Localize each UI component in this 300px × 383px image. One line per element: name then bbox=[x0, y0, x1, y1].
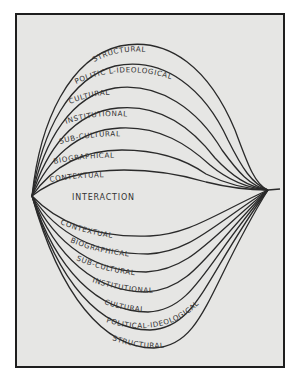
svg-text:INSTITUTIONAL: INSTITUTIONAL bbox=[91, 275, 153, 294]
curve-lower-sub-cultural bbox=[32, 190, 268, 272]
label-upper-2: CULTURAL bbox=[67, 88, 110, 106]
upper-labels: STRUCTURAL POLITIC L-IDEOLOGICAL CULTURA… bbox=[49, 44, 174, 183]
center-label: INTERACTION bbox=[72, 193, 135, 202]
curve-lower-political-ideological bbox=[32, 190, 268, 330]
lower-labels: CONTEXTUAL BIOGRAPHICAL SUB-CULTURAL INS… bbox=[59, 218, 200, 351]
label-upper-3: INSTITUTIONAL bbox=[64, 109, 128, 126]
label-lower-6: STRUCTURAL bbox=[111, 333, 164, 350]
svg-text:CONTEXTUAL: CONTEXTUAL bbox=[49, 170, 104, 184]
svg-text:STRUCTURAL: STRUCTURAL bbox=[111, 333, 164, 350]
label-lower-0: CONTEXTUAL bbox=[59, 218, 113, 241]
svg-text:INSTITUTIONAL: INSTITUTIONAL bbox=[64, 109, 128, 126]
label-lower-3: INSTITUTIONAL bbox=[91, 275, 153, 294]
label-upper-0: STRUCTURAL bbox=[91, 44, 147, 63]
label-upper-6: CONTEXTUAL bbox=[49, 170, 104, 184]
curve-lower-contextual bbox=[32, 190, 268, 236]
svg-text:CULTURAL: CULTURAL bbox=[67, 88, 110, 106]
svg-text:CULTURAL: CULTURAL bbox=[103, 297, 145, 313]
svg-text:STRUCTURAL: STRUCTURAL bbox=[91, 44, 147, 63]
svg-text:CONTEXTUAL: CONTEXTUAL bbox=[59, 218, 113, 241]
layers-diagram: STRUCTURAL POLITIC L-IDEOLOGICAL CULTURA… bbox=[0, 0, 300, 383]
label-lower-4: CULTURAL bbox=[103, 297, 145, 313]
right-convergence-tail bbox=[268, 189, 280, 190]
